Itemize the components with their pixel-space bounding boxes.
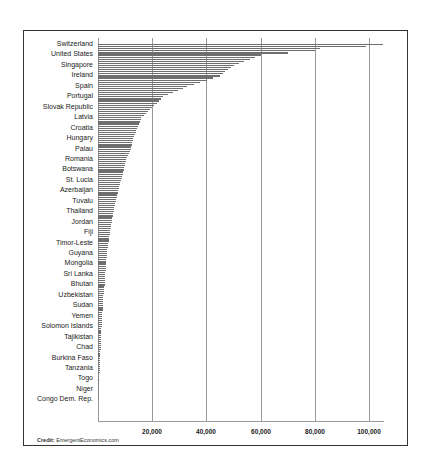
y-label: Guyana [68,249,93,257]
y-label: Romania [65,155,93,163]
bar [98,370,100,371]
y-label: Mongolia [65,259,93,267]
bar [98,318,102,319]
bar [98,240,109,241]
bar [98,295,103,296]
bar [98,115,144,116]
bar [98,107,152,108]
y-label: Latvia [74,113,93,121]
bar [98,165,125,166]
bar [98,113,146,114]
y-label: St. Lucia [66,176,93,184]
bar [98,299,103,300]
bar [98,52,288,53]
bar [98,226,111,227]
bar [98,305,103,306]
bar [98,339,101,340]
bar [98,190,118,191]
bar [98,263,106,264]
bar [98,88,183,89]
bar [98,276,105,277]
y-label: Switzerland [57,40,93,48]
bar [98,307,103,308]
y-label: Tanzania [65,364,93,372]
bar [98,117,141,118]
bar [98,63,239,64]
y-label: Tajikistan [64,333,93,341]
bar [98,134,135,135]
bar [98,259,106,260]
bar [98,67,231,68]
bar [98,243,108,244]
y-label: Sri Lanka [63,270,93,278]
y-label: Jordan [72,218,93,226]
bar [98,203,115,204]
bar [98,345,101,346]
bar [98,349,101,350]
bar [98,247,108,248]
y-label: Botswana [62,165,93,173]
bar [98,238,109,239]
bar [98,316,102,317]
bar [98,119,141,120]
bar [98,353,100,354]
bar [98,71,225,72]
bar [98,128,137,129]
bar [98,44,383,45]
bar [98,136,134,137]
x-tick-100000: 100,000 [357,428,381,435]
y-label: Spain [75,82,93,90]
bar [98,103,157,104]
bar [98,387,99,388]
gridline-100000 [369,38,370,422]
credit-line: Credit: EmergentEconomics.com [37,437,119,443]
bar [98,184,120,185]
bar [98,192,118,193]
bar [98,75,220,76]
bar [98,207,114,208]
bar [98,268,106,269]
bar [98,309,103,310]
bar [98,286,104,287]
bar [98,332,101,333]
bar [98,330,101,331]
bar [98,355,100,356]
bar [98,77,213,78]
bar [98,358,100,359]
bar [98,274,105,275]
bar [98,328,101,329]
bar [98,182,120,183]
bar [98,341,101,342]
x-axis-line [98,421,384,422]
bar [98,149,131,150]
bar [98,100,159,101]
bar [98,171,123,172]
gridline-60000 [261,38,262,422]
y-label: Yemen [71,312,93,320]
bar [98,389,99,390]
bar [98,380,99,381]
y-label: Hungary [67,134,93,142]
bar [98,393,99,394]
bar [98,228,111,229]
bar [98,105,154,106]
bar [98,312,102,313]
bar [98,215,113,216]
bar [98,61,244,62]
bar [98,362,100,363]
y-label: Burkina Faso [52,354,93,362]
bar [98,385,99,386]
bar [98,335,101,336]
bar [98,48,320,49]
bar [98,284,105,285]
y-label: Chad [76,343,93,351]
bar [98,255,107,256]
bar [98,282,105,283]
bar [98,163,125,164]
bar [98,57,255,58]
bar [98,376,99,377]
bar [98,236,109,237]
bar [98,374,99,375]
bar [98,291,104,292]
bar [98,257,107,258]
